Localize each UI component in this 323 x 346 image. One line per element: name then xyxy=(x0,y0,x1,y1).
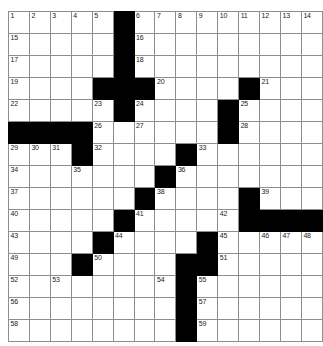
crossword-cell[interactable] xyxy=(155,210,176,232)
crossword-cell[interactable] xyxy=(29,254,50,276)
crossword-cell[interactable] xyxy=(134,254,155,276)
crossword-cell[interactable] xyxy=(260,320,281,342)
crossword-cell[interactable] xyxy=(260,100,281,122)
crossword-cell-numbered[interactable]: 31 xyxy=(50,144,71,166)
crossword-cell-numbered[interactable]: 51 xyxy=(218,254,239,276)
crossword-cell[interactable] xyxy=(155,122,176,144)
crossword-cell[interactable] xyxy=(50,100,71,122)
crossword-cell-numbered[interactable]: 12 xyxy=(260,12,281,34)
crossword-cell[interactable] xyxy=(301,254,322,276)
crossword-cell-numbered[interactable]: 53 xyxy=(50,276,71,298)
crossword-cell[interactable] xyxy=(260,276,281,298)
crossword-cell[interactable] xyxy=(71,56,92,78)
crossword-cell-numbered[interactable]: 14 xyxy=(301,12,322,34)
crossword-cell[interactable] xyxy=(260,254,281,276)
crossword-cell-numbered[interactable]: 21 xyxy=(260,78,281,100)
crossword-cell-numbered[interactable]: 15 xyxy=(9,34,30,56)
crossword-cell[interactable] xyxy=(50,210,71,232)
crossword-cell-numbered[interactable]: 36 xyxy=(176,166,197,188)
crossword-cell[interactable] xyxy=(29,298,50,320)
crossword-cell[interactable] xyxy=(113,188,134,210)
crossword-cell-numbered[interactable]: 43 xyxy=(9,232,30,254)
crossword-cell[interactable] xyxy=(113,276,134,298)
crossword-cell[interactable] xyxy=(92,166,113,188)
crossword-cell[interactable] xyxy=(218,56,239,78)
crossword-cell-numbered[interactable]: 11 xyxy=(239,12,260,34)
crossword-cell-numbered[interactable]: 42 xyxy=(218,210,239,232)
crossword-cell[interactable] xyxy=(155,254,176,276)
crossword-cell[interactable] xyxy=(280,166,301,188)
crossword-cell[interactable] xyxy=(113,254,134,276)
crossword-cell-numbered[interactable]: 6 xyxy=(134,12,155,34)
crossword-cell[interactable] xyxy=(71,232,92,254)
crossword-cell[interactable] xyxy=(280,100,301,122)
crossword-cell[interactable] xyxy=(176,232,197,254)
crossword-cell[interactable] xyxy=(29,210,50,232)
crossword-cell-numbered[interactable]: 30 xyxy=(29,144,50,166)
crossword-cell[interactable] xyxy=(218,166,239,188)
crossword-cell[interactable] xyxy=(71,78,92,100)
crossword-cell-numbered[interactable]: 17 xyxy=(9,56,30,78)
crossword-cell-numbered[interactable]: 41 xyxy=(134,210,155,232)
crossword-cell-numbered[interactable]: 40 xyxy=(9,210,30,232)
crossword-cell[interactable] xyxy=(218,276,239,298)
crossword-cell[interactable] xyxy=(301,122,322,144)
crossword-cell[interactable] xyxy=(155,320,176,342)
crossword-cell[interactable] xyxy=(301,298,322,320)
crossword-cell-numbered[interactable]: 52 xyxy=(9,276,30,298)
crossword-cell[interactable] xyxy=(155,298,176,320)
crossword-cell-numbered[interactable]: 3 xyxy=(50,12,71,34)
crossword-cell[interactable] xyxy=(113,320,134,342)
crossword-cell[interactable] xyxy=(71,276,92,298)
crossword-cell[interactable] xyxy=(92,320,113,342)
crossword-cell[interactable] xyxy=(155,56,176,78)
crossword-cell[interactable] xyxy=(280,320,301,342)
crossword-cell[interactable] xyxy=(301,276,322,298)
crossword-cell-numbered[interactable]: 29 xyxy=(9,144,30,166)
crossword-cell-numbered[interactable]: 22 xyxy=(9,100,30,122)
crossword-cell[interactable] xyxy=(280,188,301,210)
crossword-cell[interactable] xyxy=(239,56,260,78)
crossword-cell[interactable] xyxy=(197,56,218,78)
crossword-cell-numbered[interactable]: 13 xyxy=(280,12,301,34)
crossword-cell[interactable] xyxy=(176,210,197,232)
crossword-cell[interactable] xyxy=(29,78,50,100)
crossword-cell[interactable] xyxy=(134,144,155,166)
crossword-cell[interactable] xyxy=(134,232,155,254)
crossword-cell[interactable] xyxy=(197,210,218,232)
crossword-cell-numbered[interactable]: 16 xyxy=(134,34,155,56)
crossword-cell-numbered[interactable]: 33 xyxy=(197,144,218,166)
crossword-cell[interactable] xyxy=(197,100,218,122)
crossword-cell-numbered[interactable]: 2 xyxy=(29,12,50,34)
crossword-cell-numbered[interactable]: 24 xyxy=(134,100,155,122)
crossword-cell-numbered[interactable]: 57 xyxy=(197,298,218,320)
crossword-cell[interactable] xyxy=(71,100,92,122)
crossword-cell[interactable] xyxy=(113,166,134,188)
crossword-cell[interactable] xyxy=(301,34,322,56)
crossword-cell-numbered[interactable]: 56 xyxy=(9,298,30,320)
crossword-cell[interactable] xyxy=(280,144,301,166)
crossword-cell-numbered[interactable]: 44 xyxy=(113,232,134,254)
crossword-cell-numbered[interactable]: 47 xyxy=(280,232,301,254)
crossword-cell-numbered[interactable]: 34 xyxy=(9,166,30,188)
crossword-cell-numbered[interactable]: 50 xyxy=(92,254,113,276)
crossword-cell[interactable] xyxy=(260,34,281,56)
crossword-cell-numbered[interactable]: 48 xyxy=(301,232,322,254)
crossword-cell[interactable] xyxy=(197,34,218,56)
crossword-cell-numbered[interactable]: 59 xyxy=(197,320,218,342)
crossword-cell[interactable] xyxy=(301,320,322,342)
crossword-cell[interactable] xyxy=(50,232,71,254)
crossword-cell[interactable] xyxy=(280,276,301,298)
crossword-cell-numbered[interactable]: 55 xyxy=(197,276,218,298)
crossword-cell[interactable] xyxy=(301,78,322,100)
crossword-grid[interactable]: 1234567891011121314151617181920212223242… xyxy=(8,11,323,342)
crossword-cell[interactable] xyxy=(113,144,134,166)
crossword-cell[interactable] xyxy=(260,298,281,320)
crossword-cell[interactable] xyxy=(260,122,281,144)
crossword-cell[interactable] xyxy=(92,276,113,298)
crossword-cell[interactable] xyxy=(71,188,92,210)
crossword-cell[interactable] xyxy=(197,78,218,100)
crossword-cell-numbered[interactable]: 54 xyxy=(155,276,176,298)
crossword-cell[interactable] xyxy=(301,188,322,210)
crossword-cell[interactable] xyxy=(29,34,50,56)
